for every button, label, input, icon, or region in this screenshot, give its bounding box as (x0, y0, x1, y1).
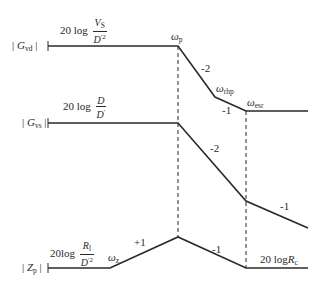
gvs-level-label: 20 log D D′ (63, 95, 106, 120)
omega-z-label: ωz (108, 252, 119, 265)
gvd-slope-minus2: -2 (201, 62, 210, 74)
gvs-axis-label: | Gvs | (22, 117, 47, 130)
zp-slope-plus1: +1 (134, 236, 146, 248)
zp-slope-minus1: -1 (212, 243, 221, 255)
zp-axis-label: | Zp | (22, 262, 42, 275)
zp-level-label: 20log Rl D′2 (50, 240, 94, 268)
omega-esr-label: ωesr (247, 97, 264, 110)
gvd-axis-label: | Gvd | (12, 40, 37, 53)
gvd-level-label: 20 log VS D′2 (60, 17, 107, 45)
zp-rc-label: 20 logRc (260, 254, 298, 267)
omega-rhp-label: ωrhp (216, 83, 234, 96)
omega-p-label: ωp (171, 31, 183, 44)
gvd-slope-minus1: -1 (222, 104, 231, 116)
gvs-slope-minus1: -1 (280, 200, 289, 212)
gvs-slope-minus2: -2 (210, 142, 219, 154)
bode-plot-canvas (0, 0, 326, 291)
